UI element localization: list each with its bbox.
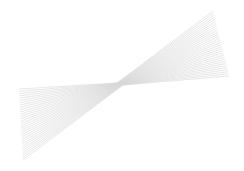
line-fan-figure: [0, 0, 244, 171]
